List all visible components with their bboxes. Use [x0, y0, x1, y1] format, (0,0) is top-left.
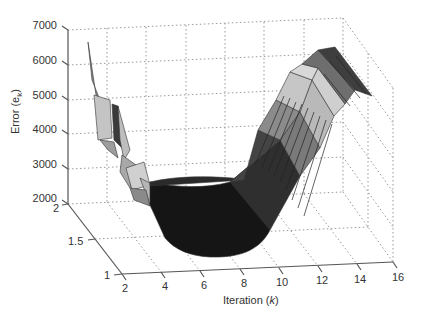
y-tick-1.5: 1.5 [68, 236, 83, 247]
x-tick-16: 16 [392, 272, 404, 283]
x-tick-6: 6 [201, 280, 207, 291]
x-tick-12: 12 [316, 275, 328, 286]
surface-plot [0, 0, 426, 319]
z-axis-title: Error (ek) [9, 89, 24, 134]
z-tick-2000: 2000 [17, 193, 57, 204]
x-tick-2: 2 [122, 283, 128, 294]
x-axis-line [122, 262, 393, 274]
z-tick-7000: 7000 [17, 20, 57, 31]
x-tick-4: 4 [162, 281, 168, 292]
x-axis-title: Iteration (k) [223, 294, 279, 306]
z-tick-3000: 3000 [17, 159, 57, 170]
z-tick-6000: 6000 [17, 55, 57, 66]
y-tick-2: 2 [53, 203, 59, 214]
error-surface [88, 42, 372, 257]
y-tick-1: 1 [104, 270, 110, 281]
x-tick-14: 14 [354, 274, 366, 285]
x-tick-10: 10 [276, 277, 288, 288]
x-tick-8: 8 [241, 278, 247, 289]
